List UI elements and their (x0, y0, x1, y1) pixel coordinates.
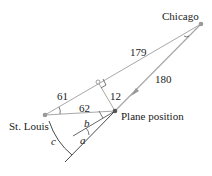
angle-c-label: c (51, 135, 56, 147)
direction-arrow-icon (131, 88, 139, 96)
chicago-st-louis-line (45, 24, 201, 115)
chicago-point (199, 22, 204, 27)
st-louis-point (43, 113, 48, 118)
plane-point (113, 109, 118, 114)
heading-extension-line (65, 111, 115, 162)
distance-179-label: 179 (130, 46, 147, 58)
plane-label: Plane position (121, 110, 184, 122)
chicago-label: Chicago (162, 10, 199, 22)
angle-a-label: a (80, 134, 86, 146)
angle-b-label: b (84, 117, 90, 129)
distance-12-label: 12 (110, 90, 121, 102)
perpendicular-foot-point (96, 80, 100, 84)
st-louis-label: St. Louis (9, 120, 49, 132)
angle-chicago-mark (184, 36, 189, 37)
angle-a-mark (86, 128, 89, 135)
angle-st-louis-mark (59, 107, 60, 114)
distance-62-label: 62 (79, 102, 90, 114)
distance-180-label: 180 (155, 73, 172, 85)
navigation-diagram: Chicago St. Louis Plane position 179 180… (0, 0, 212, 176)
distance-61-label: 61 (57, 90, 68, 102)
